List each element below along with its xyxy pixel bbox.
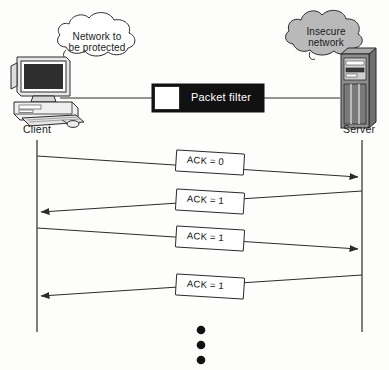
insecure-network-cloud-label: Insecure network (289, 27, 363, 48)
insecure-network-cloud-line1: Insecure (289, 27, 363, 38)
server-label: Server (343, 124, 375, 135)
server-tower-icon (341, 48, 376, 128)
client-label: Client (23, 124, 51, 135)
network-packet-filter-figure: Network to be protected Insecure network… (0, 0, 389, 370)
protected-network-cloud-line2: be protected (61, 43, 133, 54)
protected-network-cloud-label: Network to be protected (61, 32, 133, 53)
desktop-computer-icon (11, 57, 84, 127)
insecure-network-cloud-line2: network (289, 38, 363, 49)
figure-canvas (0, 0, 389, 370)
packet-filter-label: Packet filter (191, 92, 251, 104)
continuation-ellipsis-icon (197, 326, 206, 365)
protected-network-cloud-line1: Network to (61, 32, 133, 43)
